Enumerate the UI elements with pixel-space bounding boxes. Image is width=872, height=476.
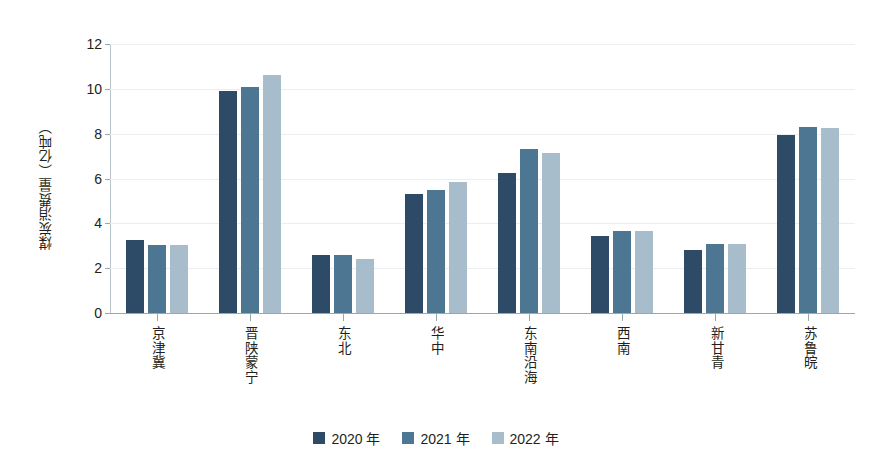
legend-item[interactable]: 2022 年 xyxy=(492,428,559,448)
y-axis-tick-label: 6 xyxy=(72,171,102,187)
plot-area xyxy=(110,44,855,313)
legend-swatch-icon xyxy=(402,432,414,444)
x-axis-category-label: 西南 xyxy=(615,326,630,355)
bar[interactable] xyxy=(405,194,423,313)
bar[interactable] xyxy=(728,244,746,313)
legend-item[interactable]: 2020 年 xyxy=(313,428,380,448)
bar-group xyxy=(684,44,746,313)
bar[interactable] xyxy=(148,245,166,313)
y-axis-tick-label: 8 xyxy=(72,126,102,142)
x-axis-tick-mark xyxy=(250,313,251,321)
bar[interactable] xyxy=(312,255,330,313)
x-axis-tick-mark xyxy=(622,313,623,321)
y-axis-tick-label: 10 xyxy=(72,81,102,97)
bar-chart-figure: 煤炭消费量（亿吨） 024681012 京津冀晋陕蒙宁东北华中东南沿海西南新甘青… xyxy=(0,0,872,476)
bar[interactable] xyxy=(684,250,702,313)
bar[interactable] xyxy=(520,149,538,313)
legend-swatch-icon xyxy=(492,432,504,444)
bar[interactable] xyxy=(706,244,724,313)
legend-swatch-icon xyxy=(313,432,325,444)
y-axis-title: 煤炭消费量（亿吨） xyxy=(34,60,60,310)
bar[interactable] xyxy=(613,231,631,313)
x-axis-category-label: 京津冀 xyxy=(149,326,164,370)
x-axis-tick-mark xyxy=(343,313,344,321)
y-axis-tick-label: 12 xyxy=(72,36,102,52)
x-axis-category-label: 新甘青 xyxy=(708,326,723,370)
bar[interactable] xyxy=(591,236,609,313)
x-axis-tick-mark xyxy=(808,313,809,321)
bar[interactable] xyxy=(126,240,144,313)
y-axis-tick-label: 0 xyxy=(72,305,102,321)
bar[interactable] xyxy=(263,75,281,313)
bar[interactable] xyxy=(334,255,352,313)
bar[interactable] xyxy=(821,128,839,313)
bar[interactable] xyxy=(449,182,467,313)
x-axis-tick-mark xyxy=(157,313,158,321)
y-axis-tick-label: 2 xyxy=(72,260,102,276)
x-axis-tick-mark xyxy=(715,313,716,321)
x-axis-category-label: 华中 xyxy=(429,326,444,355)
x-axis-category-label: 东南沿海 xyxy=(522,326,537,384)
bar[interactable] xyxy=(219,91,237,313)
x-axis-category-labels: 京津冀晋陕蒙宁东北华中东南沿海西南新甘青苏鲁皖 xyxy=(110,326,855,412)
x-axis-tick-mark xyxy=(529,313,530,321)
legend-item[interactable]: 2021 年 xyxy=(402,428,469,448)
chart-legend: 2020 年2021 年2022 年 xyxy=(0,428,872,448)
x-axis-category-label: 苏鲁皖 xyxy=(801,326,816,370)
bar[interactable] xyxy=(498,173,516,313)
bar[interactable] xyxy=(170,245,188,313)
bar[interactable] xyxy=(799,127,817,313)
x-axis-tick-mark xyxy=(436,313,437,321)
bar-group xyxy=(777,44,839,313)
x-axis-category-label: 晋陕蒙宁 xyxy=(242,326,257,384)
bar[interactable] xyxy=(777,135,795,313)
x-axis-category-label: 东北 xyxy=(336,326,351,355)
bar-group xyxy=(312,44,374,313)
bar[interactable] xyxy=(427,190,445,313)
legend-label: 2021 年 xyxy=(420,428,469,448)
bar-group xyxy=(126,44,188,313)
legend-label: 2022 年 xyxy=(510,428,559,448)
y-axis-tick-labels: 024681012 xyxy=(60,44,102,313)
bar-group xyxy=(219,44,281,313)
bar-group xyxy=(591,44,653,313)
x-axis-tick-marks xyxy=(110,313,855,321)
bar[interactable] xyxy=(356,259,374,313)
bar-group xyxy=(498,44,560,313)
bar[interactable] xyxy=(241,87,259,313)
bar[interactable] xyxy=(635,231,653,313)
legend-label: 2020 年 xyxy=(331,428,380,448)
y-axis-tick-label: 4 xyxy=(72,215,102,231)
bar[interactable] xyxy=(542,153,560,313)
bar-group xyxy=(405,44,467,313)
